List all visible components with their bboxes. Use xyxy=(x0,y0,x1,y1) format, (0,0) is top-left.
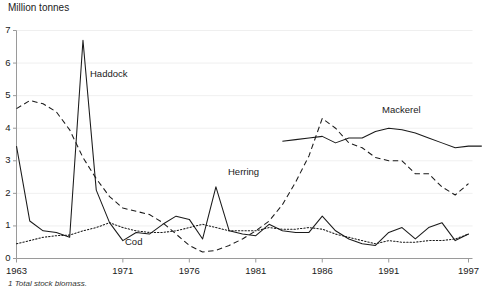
series-line-mackerel xyxy=(282,128,481,148)
plot-area xyxy=(0,0,484,292)
x-tick-label: 1991 xyxy=(369,265,409,276)
series-label-mackerel: Mackerel xyxy=(382,104,421,115)
y-tick-label: 7 xyxy=(0,24,11,35)
x-tick-label: 1963 xyxy=(0,265,37,276)
series-line-haddock xyxy=(17,40,469,245)
y-tick-label: 2 xyxy=(0,187,11,198)
y-tick-label: 5 xyxy=(0,89,11,100)
series-label-cod: Cod xyxy=(125,236,142,247)
chart-footnote: 1 Total stock biomass. xyxy=(8,279,87,289)
data-series-group xyxy=(17,40,482,252)
x-tick-label: 1976 xyxy=(169,265,209,276)
y-tick-label: 3 xyxy=(0,154,11,165)
fish-stock-line-chart: Million tonnes 01234567 1963197119761981… xyxy=(0,0,484,292)
y-tick-label: 4 xyxy=(0,122,11,133)
y-tick-label: 6 xyxy=(0,57,11,68)
series-label-haddock: Haddock xyxy=(90,68,128,79)
y-tick-label: 0 xyxy=(0,252,11,263)
x-tick-label: 1971 xyxy=(103,265,143,276)
x-tick-label: 1997 xyxy=(449,265,484,276)
x-tick-label: 1986 xyxy=(302,265,342,276)
x-tick-label: 1981 xyxy=(236,265,276,276)
series-label-herring: Herring xyxy=(228,166,259,177)
y-tick-label: 1 xyxy=(0,219,11,230)
